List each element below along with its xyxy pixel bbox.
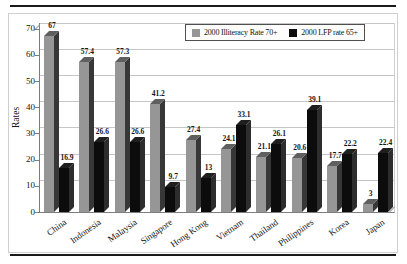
bar-front-face [307,110,317,212]
bar-side-face [69,163,74,212]
x-label-vietnam: Vietnam [214,217,245,243]
chart-figure: Rates 6716.957.426.657.326.641.29.727.41… [0,0,407,264]
bar-value-label: 41.2 [152,89,165,98]
bar-value-label: 33.1 [237,110,250,119]
bar-front-face [256,157,266,212]
legend-item-2000-illiteracy-rate-70: 2000 Illiteracy Rate 70+ [192,28,277,37]
bar-2000-illiteracy-rate-70-philippines: 20.6 [292,158,302,212]
bar-group-singapore: 41.29.7 [146,23,181,212]
bar-front-face [221,149,231,212]
bar-value-label: 39.1 [308,95,321,104]
bar-value-label: 57.4 [81,47,94,56]
bar-value-label: 20.6 [293,143,306,152]
bar-value-label: 26.1 [273,129,286,138]
bar-value-label: 26.6 [131,127,144,136]
legend-label: 2000 LFP rate 65+ [301,28,358,37]
bar-value-label: 27.4 [187,125,200,134]
bar-front-face [59,168,69,212]
y-tick-label-10: 10 [13,180,35,191]
bar-front-face [342,154,352,212]
bar-value-label: 26.6 [96,127,109,136]
bar-group-philippines: 20.639.1 [288,23,323,212]
bar-side-face [211,173,216,212]
bar-value-label: 21.1 [258,142,271,151]
bar-group-thailand: 21.126.1 [252,23,287,212]
bar-group-china: 6716.9 [40,23,75,212]
bottom-rule-divider [10,254,396,256]
bar-group-indonesia: 57.426.6 [75,23,110,212]
bar-2000-illiteracy-rate-70-japan: 3 [363,204,373,212]
x-label-singapore: Singapore [138,217,174,246]
y-tick-label-60: 60 [13,49,35,60]
chart-area: Rates 6716.957.426.657.326.641.29.727.41… [8,13,398,253]
bar-2000-illiteracy-rate-70-korea: 17.7 [327,166,337,212]
bar-2000-lfp-rate-65-thailand: 26.1 [271,144,281,212]
x-label-korea: Korea [327,217,351,238]
bar-front-face [79,62,89,212]
bar-2000-lfp-rate-65-philippines: 39.1 [307,110,317,212]
bar-value-label: 24.1 [222,134,235,143]
bar-2000-illiteracy-rate-70-thailand: 21.1 [256,157,266,212]
bar-front-face [378,153,388,212]
legend: 2000 Illiteracy Rate 70+2000 LFP rate 65… [185,24,365,41]
plot-area: 6716.957.426.657.326.641.29.727.41324.13… [39,23,395,213]
y-axis-title: Rates [10,62,22,172]
bar-2000-lfp-rate-65-singapore: 9.7 [165,187,175,212]
bar-2000-illiteracy-rate-70-vietnam: 24.1 [221,149,231,212]
legend-label: 2000 Illiteracy Rate 70+ [204,28,277,37]
bar-2000-lfp-rate-65-hong-kong: 13 [201,178,211,212]
bar-front-face [94,142,104,212]
bar-2000-lfp-rate-65-malaysia: 26.6 [130,142,140,212]
bar-side-face [140,137,145,212]
bar-2000-lfp-rate-65-china: 16.9 [59,168,69,212]
x-label-indonesia: Indonesia [69,217,103,245]
bar-2000-lfp-rate-65-korea: 22.2 [342,154,352,212]
x-label-china: China [44,217,67,238]
bar-2000-illiteracy-rate-70-malaysia: 57.3 [115,62,125,212]
bar-2000-illiteracy-rate-70-china: 67 [44,36,54,212]
legend-swatch-2000-illiteracy-rate-70 [192,29,200,37]
bar-value-label: 13 [205,163,213,172]
bar-side-face [281,139,286,212]
bar-value-label: 22.2 [344,139,357,148]
x-label-thailand: Thailand [248,217,280,244]
bar-front-face [363,204,373,212]
bar-value-label: 67 [48,21,56,30]
x-label-hong-kong: Hong Kong [169,217,209,249]
bar-front-face [150,104,160,212]
bar-2000-lfp-rate-65-vietnam: 33.1 [236,125,246,212]
bar-side-face [388,148,393,212]
bar-2000-illiteracy-rate-70-singapore: 41.2 [150,104,160,212]
bar-value-label: 3 [369,189,373,198]
bar-front-face [130,142,140,212]
bar-side-face [175,182,180,212]
bar-front-face [236,125,246,212]
bar-value-label: 17.7 [329,151,342,160]
bar-value-label: 57.3 [116,47,129,56]
bar-value-label: 22.4 [379,138,392,147]
bar-side-face [104,137,109,212]
bar-front-face [327,166,337,212]
bar-2000-illiteracy-rate-70-hong-kong: 27.4 [186,140,196,212]
bar-2000-illiteracy-rate-70-indonesia: 57.4 [79,62,89,212]
x-label-japan: Japan [364,217,387,237]
bar-2000-lfp-rate-65-indonesia: 26.6 [94,142,104,212]
bar-group-korea: 17.722.2 [323,23,358,212]
bar-front-face [115,62,125,212]
y-tick-label-70: 70 [13,23,35,34]
bar-side-face [246,120,251,212]
bar-front-face [44,36,54,212]
bar-value-label: 9.7 [169,172,178,181]
bar-front-face [292,158,302,212]
bar-group-japan: 322.4 [359,23,394,212]
bar-front-face [165,187,175,212]
bar-group-hong-kong: 27.413 [182,23,217,212]
top-rule-divider [10,5,396,7]
bar-front-face [201,178,211,212]
bar-group-malaysia: 57.326.6 [111,23,146,212]
x-label-malaysia: Malaysia [106,217,139,244]
x-label-philippines: Philippines [277,217,316,248]
bar-side-face [352,149,357,212]
bar-front-face [186,140,196,212]
y-tick-label-0: 0 [13,207,35,218]
